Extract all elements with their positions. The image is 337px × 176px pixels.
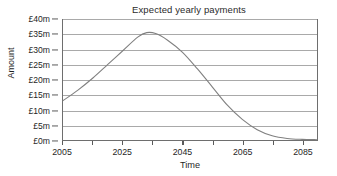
y-tick-mark xyxy=(52,125,58,126)
x-tick-label: 2025 xyxy=(112,147,132,157)
data-curve-svg xyxy=(63,19,317,140)
x-tick-mark xyxy=(243,141,244,145)
x-tick-label: 2085 xyxy=(293,147,313,157)
x-tick-mark xyxy=(182,141,183,145)
y-tick-label: £15m xyxy=(29,90,51,100)
x-tick-mark xyxy=(62,141,63,145)
y-tick-mark xyxy=(52,110,58,111)
x-tick-mark xyxy=(213,141,214,145)
chart-title: Expected yearly payments xyxy=(60,4,318,15)
x-tick-mark xyxy=(273,141,274,145)
y-tick-mark xyxy=(52,64,58,65)
x-tick-mark xyxy=(303,141,304,145)
y-tick-label: £20m xyxy=(29,75,51,85)
y-tick-label: £40m xyxy=(29,14,51,24)
series-line-expected-yearly-payments xyxy=(63,32,317,139)
y-tick-mark xyxy=(52,34,58,35)
y-tick-label: £35m xyxy=(29,29,51,39)
y-tick-mark xyxy=(52,140,58,141)
y-tick-mark xyxy=(52,18,58,19)
y-tick-label: £25m xyxy=(29,60,51,70)
y-tick-label: £10m xyxy=(29,106,51,116)
x-axis-labels: 20052025204520652085 xyxy=(62,147,318,161)
x-tick-label: 2045 xyxy=(173,147,193,157)
x-tick-label: 2065 xyxy=(233,147,253,157)
chart-container: Expected yearly payments Amount £40m£35m… xyxy=(0,0,337,176)
x-tick-label: 2005 xyxy=(52,147,72,157)
x-tick-mark xyxy=(122,141,123,145)
y-tick-label: £0m xyxy=(33,136,50,146)
x-tick-mark xyxy=(152,141,153,145)
y-tick-mark xyxy=(52,49,58,50)
y-axis-labels: £40m£35m£30m£25m£20m£15m£10m£5m£0m xyxy=(0,19,58,141)
x-axis-ticks xyxy=(62,141,318,146)
y-tick-label: £5m xyxy=(33,121,50,131)
y-tick-mark xyxy=(52,95,58,96)
plot-area xyxy=(62,19,318,141)
y-tick-label: £30m xyxy=(29,45,51,55)
y-tick-mark xyxy=(52,79,58,80)
x-tick-mark xyxy=(92,141,93,145)
x-axis-title: Time xyxy=(62,160,318,170)
